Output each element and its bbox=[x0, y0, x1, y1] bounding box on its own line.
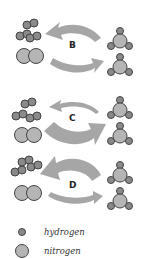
hydrogen-molecule bbox=[21, 98, 36, 108]
legend-hydrogen-label: hydrogen bbox=[44, 227, 85, 237]
panel-d: D bbox=[11, 156, 133, 210]
equilibrium-diagram: B C D bbox=[0, 0, 144, 259]
panel-label: B bbox=[69, 40, 76, 50]
forward-arrow bbox=[50, 58, 104, 73]
reactants-c bbox=[12, 98, 42, 143]
legend: hydrogen nitrogen bbox=[16, 227, 85, 258]
forward-arrow bbox=[44, 122, 106, 145]
ammonia-molecule bbox=[108, 188, 133, 210]
panel-b: B bbox=[16, 19, 133, 76]
products-b bbox=[108, 28, 133, 76]
nitrogen-molecule bbox=[17, 49, 44, 64]
ammonia-molecule bbox=[108, 28, 133, 50]
ammonia-molecule bbox=[108, 97, 133, 119]
legend-nitrogen-label: nitrogen bbox=[44, 246, 81, 256]
nitrogen-legend-icon bbox=[16, 245, 29, 258]
nitrogen-molecule bbox=[15, 186, 42, 201]
reverse-arrow bbox=[45, 22, 101, 42]
hydrogen-legend-icon bbox=[19, 229, 26, 236]
hydrogen-molecule bbox=[12, 110, 27, 120]
forward-arrow bbox=[48, 191, 103, 204]
hydrogen-molecule bbox=[11, 166, 26, 176]
panel-label: C bbox=[69, 113, 76, 123]
ammonia-molecule bbox=[108, 123, 133, 145]
hydrogen-molecule bbox=[23, 19, 38, 29]
hydrogen-molecule bbox=[26, 112, 41, 122]
reverse-arrow bbox=[40, 156, 101, 181]
nitrogen-molecule bbox=[15, 128, 42, 143]
ammonia-molecule bbox=[108, 54, 133, 76]
products-d bbox=[108, 162, 133, 210]
reverse-arrow bbox=[49, 100, 99, 114]
ammonia-molecule bbox=[108, 162, 133, 184]
products-c bbox=[108, 97, 133, 145]
reactants-d bbox=[11, 156, 42, 201]
panel-label: D bbox=[69, 180, 76, 190]
reactants-b bbox=[16, 19, 44, 64]
panel-c: C bbox=[12, 97, 133, 146]
